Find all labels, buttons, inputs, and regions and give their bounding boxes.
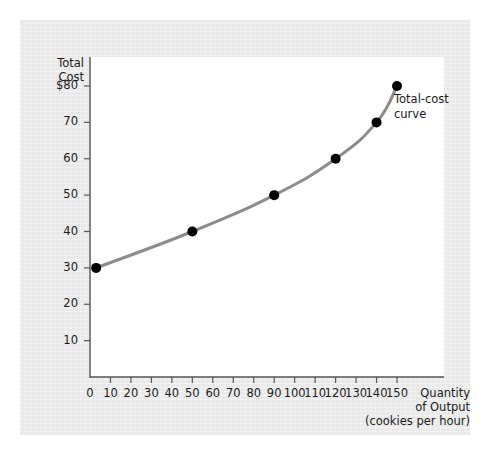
y-tick-label: 40 (38, 226, 78, 237)
x-axis-title-line3: (cookies per hour) (250, 414, 470, 428)
data-point-marker (91, 263, 101, 273)
x-tick-label: 150 (385, 388, 409, 399)
y-axis-title-line1: Total (36, 56, 84, 70)
y-tick-label: 50 (38, 189, 78, 200)
data-point-marker (331, 154, 341, 164)
data-point-markers (91, 81, 402, 273)
curve-annotation: Total-cost curve (394, 92, 449, 122)
data-point-marker (187, 227, 197, 237)
total-cost-curve-path (96, 86, 397, 268)
total-cost-curve-figure: Total Cost Quantity of Output (cookies p… (0, 0, 488, 454)
y-tick-label: 30 (38, 262, 78, 273)
y-tick-label: 60 (38, 153, 78, 164)
axes-group (90, 57, 444, 378)
data-point-marker (269, 190, 279, 200)
total-cost-curve (96, 86, 397, 268)
y-tick-label: 20 (38, 298, 78, 309)
data-point-marker (372, 117, 382, 127)
y-tick-label: 10 (38, 335, 78, 346)
data-point-marker (392, 81, 402, 91)
y-tick-label: $80 (38, 80, 78, 91)
curve-annotation-line1: Total-cost (394, 92, 449, 107)
x-axis-title-line2: of Output (250, 400, 470, 414)
tick-marks-group (84, 86, 397, 383)
curve-annotation-line2: curve (394, 107, 449, 122)
y-tick-label: 70 (38, 116, 78, 127)
